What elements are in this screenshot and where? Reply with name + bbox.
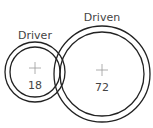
driven-teeth-count: 72 [95,81,109,94]
driven-label: Driven [84,11,120,24]
driven-center-cross-icon [96,64,108,76]
driver-teeth-count: 18 [28,79,42,92]
driven-gear: Driven 72 [54,11,150,122]
driver-center-cross-icon [29,62,41,74]
driver-gear: Driver 18 [5,29,65,102]
gear-diagram: Driver 18 Driven 72 [0,0,153,128]
driver-label: Driver [18,29,52,42]
